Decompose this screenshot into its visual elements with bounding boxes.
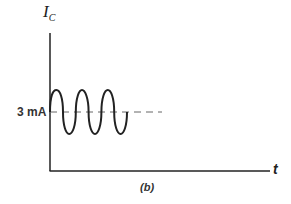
dc-level-label: 3 mA	[17, 105, 46, 119]
y-axis-label: IC	[43, 2, 55, 23]
x-axis-label: t	[273, 161, 278, 177]
figure-caption: (b)	[140, 181, 154, 193]
waveform-diagram	[0, 0, 291, 204]
